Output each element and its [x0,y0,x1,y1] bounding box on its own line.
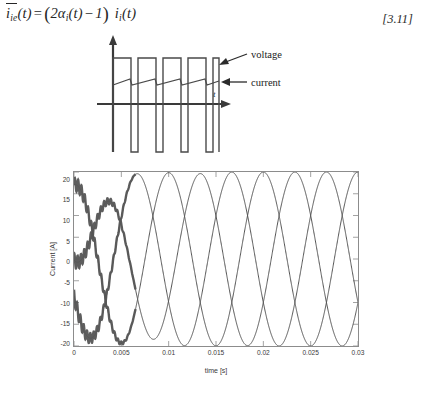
equation-reference: [3.11] [382,12,413,27]
equation-lhs-arg: (t) [18,5,32,21]
xtick-0015: 0.015 [208,349,225,356]
equation-one: 1 [95,5,102,21]
time-axis [97,100,231,108]
ytick-10: 10 [63,216,70,223]
y-axis-label: Current [A] [49,242,56,276]
equation-minus: − [83,5,95,21]
xtick-0: 0 [72,349,76,356]
equation-expression: iie(t)=(2αi(t)−1)ii(t) [6,4,136,25]
xtick-0005: 0.005 [113,349,130,356]
current-callout-arrow [221,78,247,86]
xtick-001: 0.01 [162,349,175,356]
ytick-0: 0 [66,258,70,265]
series-phase-b-ripple [74,198,136,289]
ytick-neg5: -5 [64,278,70,285]
ytick-5: 5 [66,237,70,244]
ytick-neg20: -20 [60,339,70,346]
equation-alpha-arg: (t) [69,5,83,21]
x-axis-label: time [s] [73,367,359,374]
ytick-20: 20 [63,175,70,182]
equation-rhs-arg: (t) [122,5,136,21]
plot-axes-frame: 20 15 10 5 0 -5 -10 -15 -20 0 0.005 0.01… [73,171,359,347]
voltage-callout-arrow [219,54,247,65]
equation-coefficient: 2 [50,5,57,21]
equation-lhs-subscript: ie [10,13,17,23]
series-phase-c [74,172,358,346]
three-phase-current-plot [74,172,358,346]
current-waveform [113,79,219,85]
equation-equals: = [32,5,44,21]
current-label: current [251,77,281,88]
equation-row: iie(t)=(2αi(t)−1)ii(t) [3.11] [0,0,421,34]
ytick-15: 15 [63,196,70,203]
series-phase-a [74,172,358,346]
equation-close-paren: ) [103,4,109,24]
waveform-diagram: t voltage current [95,32,335,158]
equation-alpha: α [58,5,66,21]
xtick-002: 0.02 [257,349,270,356]
voltage-label: voltage [251,49,282,60]
ytick-neg15: -15 [60,320,70,327]
series-phase-b [74,172,358,346]
figure-a: t voltage current a) [0,32,421,158]
figure-b: 20 15 10 5 0 -5 -10 -15 -20 0 0.005 0.01… [0,160,421,375]
ytick-neg10: -10 [60,299,70,306]
xtick-003: 0.03 [352,349,365,356]
equation-lhs: iie [6,5,18,23]
xtick-0025: 0.025 [302,349,319,356]
figure-page: iie(t)=(2αi(t)−1)ii(t) [3.11] t [0,0,421,400]
